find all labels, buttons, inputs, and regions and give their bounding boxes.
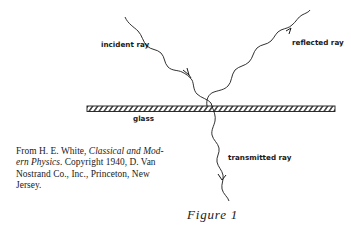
figure-caption: Figure 1 [187,207,238,223]
citation-publisher: Nostrand Co., Inc., Princeton, New [16,169,150,179]
incident-ray-label: incident ray [101,40,150,49]
citation-book-title-part1: Classical and Mod- [89,146,164,156]
reflected-ray [207,10,310,106]
citation-copyright: . Copyright 1940, D. Van [60,157,156,167]
transmitted-ray-label: transmitted ray [228,153,292,162]
glass-slab [87,106,335,112]
reflected-ray-label: reflected ray [292,38,344,47]
ray-diagram: incident ray reflected ray transmitted r… [0,0,351,237]
citation-location: Jersey. [16,180,42,190]
reflected-arrow-icon [286,28,291,34]
glass-label: glass [133,114,154,123]
citation-prefix: From H. E. White, [16,146,89,156]
transmitted-arrow-icon [218,174,226,180]
citation-text: From H. E. White, Classical and Mod- ern… [16,146,176,192]
incident-ray [125,17,212,106]
transmitted-ray [212,106,229,201]
citation-book-title-part2: ern Physics [16,157,60,167]
